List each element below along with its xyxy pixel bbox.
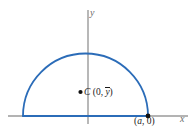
x-axis-label: x	[180, 114, 184, 124]
figure-canvas	[0, 0, 196, 136]
semicircle-centroid-figure: y x C (0, y) (a, 0)	[0, 0, 196, 136]
centroid-label: C (0, y)	[84, 87, 113, 98]
centroid-close-paren: )	[110, 87, 113, 97]
vertex-close-paren: )	[151, 116, 154, 126]
vertex-label: (a, 0)	[134, 117, 155, 127]
y-axis-label: y	[90, 8, 94, 18]
semicircle-arc	[23, 54, 148, 116]
centroid-point	[78, 90, 82, 94]
